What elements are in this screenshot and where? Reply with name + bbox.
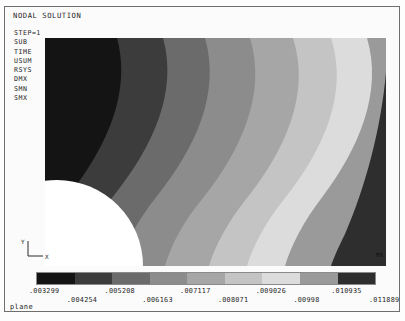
- legend-value-10: .011889: [369, 296, 399, 304]
- contour-colorbar: [36, 272, 376, 285]
- legend-value-4: .006163: [142, 296, 172, 304]
- contour-plot-svg: [45, 38, 386, 266]
- legend-value-6: .008071: [218, 296, 248, 304]
- colorbar-band-6: [225, 273, 263, 284]
- colorbar-band-7: [262, 273, 300, 284]
- info-line-rsys: RSYS: [14, 66, 41, 75]
- page-title: NODAL SOLUTION: [13, 11, 81, 20]
- colorbar-band-3: [112, 273, 150, 284]
- contour-plot: [45, 38, 386, 266]
- colorbar-band-1: [37, 273, 75, 284]
- colorbar-band-5: [187, 273, 225, 284]
- info-line-time: TIME: [14, 48, 41, 57]
- legend-value-3: .005208: [105, 287, 135, 295]
- legend-value-7: .009026: [256, 287, 286, 295]
- colorbar-band-4: [150, 273, 188, 284]
- info-line-smx: SMX: [14, 94, 41, 103]
- axis-x-label: X: [45, 253, 49, 260]
- colorbar-band-2: [75, 273, 113, 284]
- info-line-sub: SUB: [14, 38, 41, 47]
- mx-marker: MX: [376, 251, 384, 258]
- solution-info-stack: STEP=1 SUB TIME USUM RSYS DMX SMN SMX: [14, 29, 41, 103]
- info-line-usum: USUM: [14, 57, 41, 66]
- axis-y-label: Y: [21, 238, 25, 245]
- legend-value-5: .007117: [180, 287, 210, 295]
- info-line-smn: SMN: [14, 85, 41, 94]
- ansys-plot-window: NODAL SOLUTION STEP=1 SUB TIME USUM RSYS…: [0, 0, 405, 321]
- footer-label: plane: [10, 303, 33, 311]
- legend-values-bottom-row: .004254.006163.008071.00998.011889: [0, 296, 405, 306]
- contour-bands: [45, 38, 386, 266]
- info-line-dmx: DMX: [14, 75, 41, 84]
- legend-value-1: .003299: [29, 287, 59, 295]
- colorbar-band-8: [300, 273, 338, 284]
- axis-triad: Y X: [18, 238, 52, 264]
- info-line-step: STEP=1: [14, 29, 41, 38]
- legend-value-9: .010935: [331, 287, 361, 295]
- legend-value-2: .004254: [67, 296, 97, 304]
- legend-value-8: .00998: [293, 296, 319, 304]
- colorbar-band-9: [338, 273, 376, 284]
